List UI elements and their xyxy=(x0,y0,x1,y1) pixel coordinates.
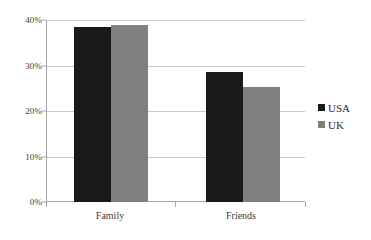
gridline-40 xyxy=(46,20,305,21)
y-tick-label-40: 40% xyxy=(2,15,42,25)
legend-swatch-usa-icon xyxy=(318,104,325,111)
y-tick-label-20: 20% xyxy=(2,106,42,116)
legend: USA UK xyxy=(318,99,350,133)
bar-friends-uk xyxy=(243,87,280,202)
y-axis: 40% 30% 20% 10% 0% xyxy=(0,20,42,202)
y-tick-label-10: 10% xyxy=(2,152,42,162)
legend-label-usa: USA xyxy=(328,102,350,114)
bar-chart: 40% 30% 20% 10% 0% Family Friends USA xyxy=(0,0,371,240)
x-tick-label-family: Family xyxy=(96,210,124,221)
legend-item-usa: USA xyxy=(318,99,350,116)
y-axis-line xyxy=(46,20,47,202)
legend-swatch-uk-icon xyxy=(318,121,325,128)
plot-area xyxy=(46,20,305,202)
y-tick-label-30: 30% xyxy=(2,61,42,71)
legend-item-uk: UK xyxy=(318,116,350,133)
y-tick-label-0: 0% xyxy=(2,197,42,207)
bar-family-uk xyxy=(111,25,148,202)
legend-label-uk: UK xyxy=(328,119,344,131)
x-tick-label-friends: Friends xyxy=(226,210,256,221)
x-tick-mark-left xyxy=(46,202,47,207)
bar-family-usa xyxy=(74,27,111,202)
x-tick-mark-middle xyxy=(175,202,176,207)
x-tick-mark-right xyxy=(305,202,306,207)
bar-friends-usa xyxy=(206,72,243,202)
